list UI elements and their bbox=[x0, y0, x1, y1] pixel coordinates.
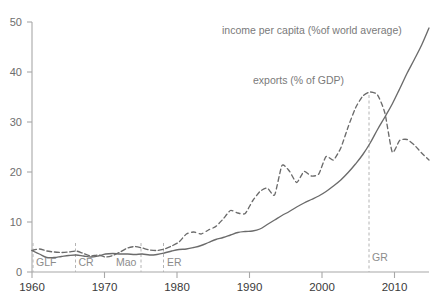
chart-figure: 0 10 20 30 40 50 1960 1970 1980 1990 200… bbox=[0, 0, 433, 301]
series-label-income: income per capita (%of world average) bbox=[222, 24, 402, 36]
event-label-cr: CR bbox=[79, 256, 94, 268]
x-tick-label-2010: 2010 bbox=[375, 281, 415, 293]
event-label-mao: Mao bbox=[116, 256, 136, 268]
x-tick-label-2000: 2000 bbox=[302, 281, 342, 293]
x-tick-label-1990: 1990 bbox=[230, 281, 270, 293]
y-tick-label-10: 10 bbox=[0, 216, 22, 228]
chart-plot-area bbox=[0, 0, 433, 301]
event-label-glf: GLF bbox=[36, 256, 56, 268]
x-tick-label-1970: 1970 bbox=[85, 281, 125, 293]
x-tick-label-1980: 1980 bbox=[157, 281, 197, 293]
event-label-er: ER bbox=[167, 256, 182, 268]
y-tick-label-0: 0 bbox=[0, 266, 22, 278]
event-label-gr: GR bbox=[372, 251, 388, 263]
series-label-exports: exports (% of GDP) bbox=[253, 74, 344, 86]
y-tick-label-20: 20 bbox=[0, 166, 22, 178]
x-axis-ticks bbox=[32, 272, 395, 278]
y-tick-label-30: 30 bbox=[0, 116, 22, 128]
y-tick-label-40: 40 bbox=[0, 66, 22, 78]
income-label-leader bbox=[404, 18, 426, 30]
y-axis-ticks bbox=[27, 22, 32, 272]
x-tick-label-1960: 1960 bbox=[12, 281, 52, 293]
y-tick-label-50: 50 bbox=[0, 16, 22, 28]
